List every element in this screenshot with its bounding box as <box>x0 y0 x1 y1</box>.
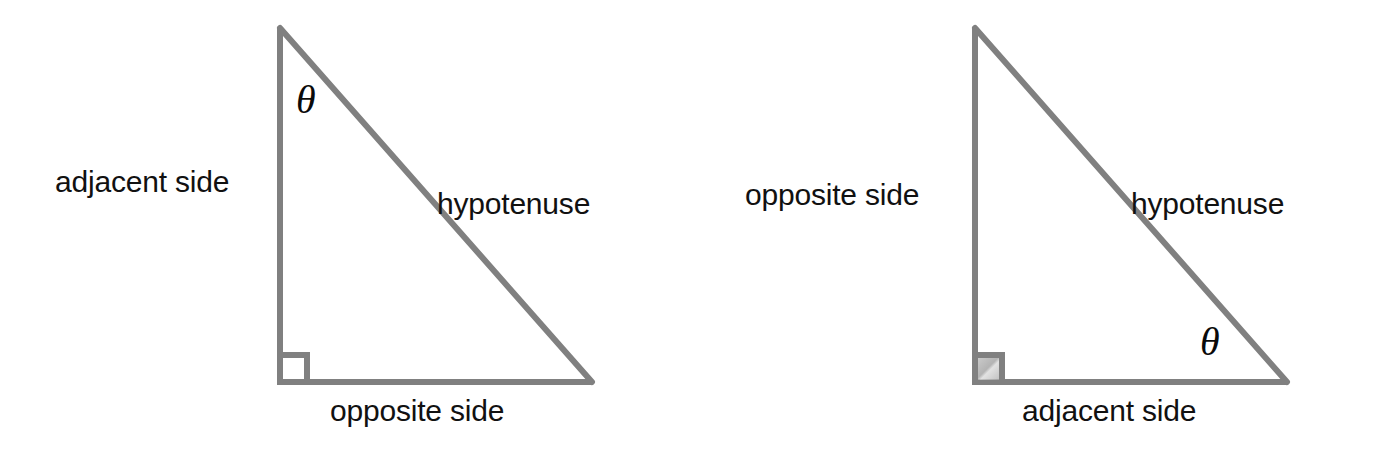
triangle-left-theta-symbol: θ <box>296 80 316 120</box>
triangle-right-horizontal-leg-label: adjacent side <box>1022 396 1196 426</box>
triangle-right-vertical-leg-label: opposite side <box>745 180 919 210</box>
triangles-svg <box>0 0 1389 456</box>
triangle-left-horizontal-leg-label: opposite side <box>330 396 504 426</box>
triangle-left-hypotenuse-label: hypotenuse <box>437 189 590 219</box>
triangle-right-theta-symbol: θ <box>1200 322 1220 362</box>
triangle-right-right-angle-shading <box>978 358 1000 380</box>
figure-canvas: adjacent side hypotenuse opposite side θ… <box>0 0 1389 456</box>
triangle-left-vertical-leg-label: adjacent side <box>55 167 229 197</box>
triangle-left-right-angle-marker <box>280 355 307 382</box>
triangle-right-hypotenuse-label: hypotenuse <box>1131 189 1284 219</box>
